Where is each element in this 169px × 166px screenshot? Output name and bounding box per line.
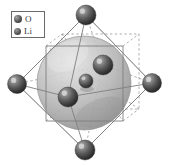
oxygen-bottom — [75, 140, 95, 160]
octahedron-figure: O Li — [0, 0, 169, 166]
oxygen-right — [143, 74, 162, 93]
oxygen-back — [93, 55, 113, 75]
legend-item-lithium: Li — [14, 25, 44, 37]
sphere-icon-lithium — [14, 28, 21, 35]
sphere-icon-oxygen — [14, 15, 22, 23]
oxygen-left — [8, 75, 27, 94]
oxygen-front — [58, 87, 78, 107]
legend-label-oxygen: O — [25, 13, 32, 25]
oxygen-top — [76, 5, 96, 25]
legend: O Li — [11, 11, 45, 38]
lithium-center — [79, 74, 94, 92]
legend-item-oxygen: O — [14, 13, 44, 25]
legend-label-lithium: Li — [24, 25, 32, 37]
